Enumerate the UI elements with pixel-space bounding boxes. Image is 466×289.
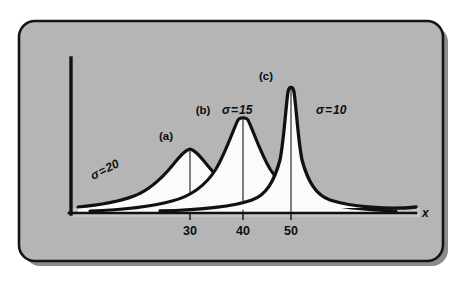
x-axis-label: x <box>421 206 430 220</box>
curve-c-label: (c) <box>259 70 273 82</box>
curve-b-sigma-label: σ = 15 <box>222 103 253 117</box>
x-tick-label-40: 40 <box>236 224 250 238</box>
x-tick-label-30: 30 <box>183 224 197 238</box>
curve-c-sigma-label: σ = 10 <box>316 103 347 117</box>
curve-a-label: (a) <box>159 130 173 142</box>
curve-b-label: (b) <box>196 104 211 116</box>
x-tick-label-50: 50 <box>284 224 298 238</box>
figure-root: 30 40 50 x (a) σ = 20 (b) σ = 15 (c) σ =… <box>0 0 466 289</box>
distribution-curves-figure: 30 40 50 x (a) σ = 20 (b) σ = 15 (c) σ =… <box>0 0 466 289</box>
